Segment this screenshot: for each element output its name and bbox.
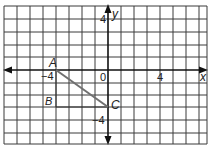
x-axis-label: x — [199, 70, 207, 84]
y-tick-label-negative: −4 — [92, 114, 105, 126]
x-tick-label-positive: 4 — [157, 71, 163, 83]
point-a-label: A — [48, 56, 57, 70]
x-tick-label-negative: −4 — [41, 70, 54, 82]
y-axis-label: y — [111, 7, 119, 21]
coordinate-grid: A B C x y 0 4 −4 4 −4 — [0, 0, 211, 150]
origin-label: 0 — [100, 71, 106, 83]
y-tick-label-positive: 4 — [100, 13, 106, 25]
point-c-label: C — [111, 98, 120, 112]
y-axis-up-arrow-icon — [105, 4, 112, 13]
point-b-label: B — [45, 95, 52, 107]
